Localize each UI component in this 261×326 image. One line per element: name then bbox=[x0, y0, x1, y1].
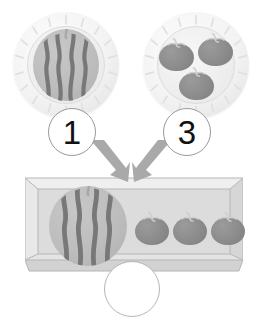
tomato-stem bbox=[198, 33, 233, 66]
count-badge-group-1-label: 1 bbox=[63, 116, 81, 149]
count-badge-group-2[interactable]: 3 bbox=[163, 108, 211, 156]
tomato-stem bbox=[211, 212, 245, 245]
tomato-stem bbox=[135, 212, 169, 245]
watermelon-in-tray bbox=[49, 186, 127, 266]
tomato-in-tray bbox=[211, 212, 245, 245]
plate-group-2[interactable] bbox=[143, 12, 249, 118]
worksheet-canvas: 1 3 bbox=[0, 0, 261, 326]
tomato-on-plate bbox=[179, 67, 214, 100]
count-badge-group-2-label: 3 bbox=[178, 116, 196, 149]
tomato-stem bbox=[173, 212, 207, 245]
watermelon-stripes bbox=[33, 29, 99, 101]
tomato-on-plate bbox=[198, 33, 233, 66]
tomato-in-tray bbox=[173, 212, 207, 245]
answer-blank-circle[interactable] bbox=[104, 261, 160, 317]
watermelon-stripes bbox=[49, 186, 127, 266]
watermelon-on-plate bbox=[33, 29, 99, 101]
count-badge-group-1[interactable]: 1 bbox=[48, 108, 96, 156]
tomato-in-tray bbox=[135, 212, 169, 245]
arrow-left-to-tray bbox=[86, 138, 130, 182]
combined-tray[interactable] bbox=[25, 172, 243, 273]
plate-group-1[interactable] bbox=[13, 12, 119, 118]
tomato-stem bbox=[179, 67, 214, 100]
